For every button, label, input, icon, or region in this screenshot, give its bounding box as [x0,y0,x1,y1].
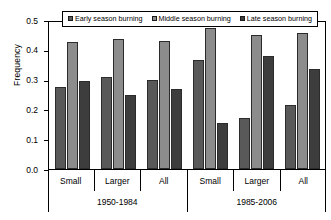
x-axis-category-label: Larger [95,170,142,191]
y-axis-tick-label: 0.5 [12,17,38,26]
bar [147,80,158,169]
x-axis-category-label: All [141,170,188,191]
x-axis-category-label: Small [48,170,95,191]
legend-swatch-icon [152,16,157,21]
bar [285,105,296,169]
bar [205,28,216,170]
bar [159,41,170,169]
chart-legend: Early season burningMiddle season burnin… [62,11,318,27]
y-axis-tick-labels: 0.00.10.20.30.40.5 [8,0,38,220]
legend-item: Middle season burning [152,15,231,22]
x-axis-category-row: SmallLargerAllSmallLargerAll [48,170,326,191]
axis-edge-rule [325,170,326,212]
legend-label: Middle season burning [159,15,231,22]
bar [171,89,182,170]
bar-group [279,22,325,169]
plot-area [48,21,326,170]
bar-group [95,22,141,169]
bar [79,81,90,169]
legend-label: Late season burning [247,15,312,22]
frequency-bar-chart: Frequency 0.00.10.20.30.40.5 Early seaso… [0,0,331,220]
x-axis-category-label: Small [188,170,235,191]
y-axis-tick-label: 0.1 [12,136,38,145]
bar-group [233,22,279,169]
bar [297,33,308,169]
x-axis-category-label: Larger [234,170,281,191]
bar [263,56,274,169]
bar [193,60,204,169]
x-axis-category-label: All [281,170,327,191]
legend-item: Late season burning [240,15,312,22]
bar [101,77,112,169]
y-axis-tick-label: 0.4 [12,46,38,55]
bar-group [141,22,187,169]
bar-group [187,22,233,169]
bar [125,95,136,170]
legend-label: Early season burning [75,15,143,22]
bar [55,87,66,169]
legend-swatch-icon [68,16,73,21]
bar [309,69,320,169]
bar [251,35,262,169]
legend-swatch-icon [240,16,245,21]
x-axis-period-label: 1985-2006 [188,191,327,212]
bars-layer [49,22,325,169]
bar [239,118,250,169]
bar [217,123,228,169]
bar-group [49,22,95,169]
axis-edge-rule [48,170,49,212]
y-axis-tick-label: 0.0 [12,166,38,175]
y-axis-tick-label: 0.2 [12,106,38,115]
x-axis-period-row: 1950-19841985-2006 [48,191,326,212]
bar [67,42,78,169]
bar [113,39,124,169]
y-axis-tick-label: 0.3 [12,76,38,85]
x-axis-period-label: 1950-1984 [48,191,188,212]
legend-item: Early season burning [68,15,143,22]
